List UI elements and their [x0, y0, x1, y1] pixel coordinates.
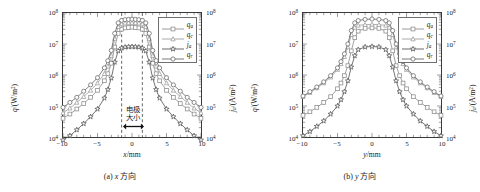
data-marker-circle [377, 17, 381, 21]
legend-key-star [161, 40, 185, 50]
data-marker-circle [425, 85, 429, 89]
data-marker-star [369, 44, 374, 49]
legend-label-qa: qa [187, 21, 193, 29]
data-marker-circle [199, 105, 203, 109]
data-marker-circle [164, 76, 168, 80]
data-marker-star [404, 103, 409, 108]
data-marker-square [363, 26, 367, 30]
data-marker-square [82, 102, 86, 106]
data-marker-circle [301, 94, 305, 98]
data-marker-triangle [377, 22, 381, 26]
data-marker-star [338, 97, 343, 102]
data-marker-circle [356, 19, 360, 23]
data-marker-circle [178, 89, 182, 93]
data-marker-square [61, 116, 65, 120]
y-tick-lft-1e7: 107 [24, 40, 58, 49]
plot-area-a: 电极大小qaqcjaqr [62, 12, 202, 138]
data-marker-square [377, 26, 381, 30]
data-marker-square [336, 87, 340, 91]
x-tick-4: 10 [429, 140, 455, 148]
legend-label-qc: qc [427, 31, 433, 39]
data-marker-circle [339, 60, 343, 64]
legend-key-circle [401, 50, 425, 60]
data-marker-circle [322, 80, 326, 84]
data-marker-circle [349, 29, 353, 33]
electrode-annotation-line2: 大小 [123, 114, 144, 122]
data-marker-circle [342, 52, 346, 56]
legend-label-qr: qr [427, 51, 433, 59]
data-marker-star [397, 89, 402, 94]
data-marker-square [425, 106, 429, 110]
data-marker-circle [106, 59, 110, 63]
legend-item-qr: qr [161, 50, 193, 60]
data-marker-star [363, 44, 368, 49]
data-marker-circle [61, 105, 65, 109]
y-tick-rgt-1e7: 107 [446, 40, 480, 49]
data-marker-circle [151, 48, 155, 52]
y-tick-rgt-1e6: 106 [206, 71, 240, 80]
y-tick-lft-1e8: 108 [264, 8, 298, 17]
x-tick-3: 5 [154, 140, 180, 148]
data-marker-circle [89, 83, 93, 87]
data-marker-star [394, 78, 399, 83]
data-marker-circle [418, 80, 422, 84]
data-marker-square [398, 74, 402, 78]
data-marker-circle [158, 66, 162, 70]
legend-item-qr: qr [401, 50, 433, 60]
data-marker-square [349, 49, 353, 53]
data-marker-square [172, 95, 176, 99]
legend-label-qa: qa [427, 21, 433, 29]
data-marker-square [329, 95, 333, 99]
legend-key-circle [161, 50, 185, 60]
data-marker-circle [370, 17, 374, 21]
data-marker-square [322, 101, 326, 105]
x-tick-1: −5 [324, 140, 350, 148]
data-marker-circle [68, 100, 72, 104]
data-marker-square [412, 95, 416, 99]
data-marker-circle [411, 74, 415, 78]
chart-panel-b: q/(W/m2)ja/(A/m2)10410410510510610610710… [240, 0, 480, 192]
x-axis-label: y/mm [302, 150, 442, 159]
data-marker-square [356, 29, 360, 33]
figure-root: q/(W/m2)ja/(A/m2)10410410510510610610710… [0, 0, 480, 192]
chart-panel-a: q/(W/m2)ja/(A/m2)10410410510510610610710… [0, 0, 240, 192]
data-marker-circle [144, 21, 148, 25]
y-tick-lft-1e5: 105 [24, 103, 58, 112]
data-marker-square [96, 88, 100, 92]
data-marker-triangle [61, 111, 65, 115]
data-marker-circle [439, 94, 443, 98]
data-marker-star [352, 53, 357, 58]
data-marker-square [308, 110, 312, 114]
data-marker-circle [391, 29, 395, 33]
legend-key-triangle [161, 30, 185, 40]
data-marker-circle [363, 17, 367, 21]
legend-key-triangle [401, 30, 425, 40]
data-marker-circle [346, 42, 350, 46]
data-marker-square [68, 112, 72, 116]
y-tick-rgt-1e6: 106 [446, 71, 480, 80]
x-tick-2: 0 [359, 140, 385, 148]
plot-area-b: qaqcjaqr [302, 12, 442, 138]
data-marker-square [384, 29, 388, 33]
y-axis-label-left: q/(W/m2) [10, 84, 19, 112]
electrode-size-arrow [123, 122, 144, 131]
data-marker-star [376, 44, 381, 49]
data-marker-circle [109, 48, 113, 52]
data-marker-square [391, 49, 395, 53]
y-tick-rgt-1e5: 105 [446, 103, 480, 112]
data-marker-circle [95, 76, 99, 80]
legend-item-qa: qa [161, 20, 193, 30]
data-marker-circle [75, 95, 79, 99]
data-marker-square [199, 116, 203, 120]
data-marker-square [343, 74, 347, 78]
y-tick-rgt-1e8: 108 [206, 8, 240, 17]
data-marker-circle [432, 90, 436, 94]
data-marker-star [342, 89, 347, 94]
legend-label-ja: ja [427, 41, 432, 49]
data-marker-star [102, 95, 107, 100]
data-marker-star [335, 103, 340, 108]
chart-legend: qaqcjaqr [398, 17, 437, 63]
data-marker-square [192, 112, 196, 116]
data-marker-star [383, 47, 388, 52]
legend-label-qc: qc [187, 31, 193, 39]
